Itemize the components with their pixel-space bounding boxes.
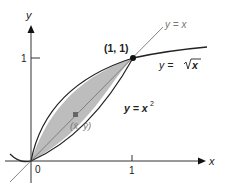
- x-axis-label: x: [208, 155, 215, 167]
- x-axis-arrow-icon: [198, 158, 206, 165]
- svg-text:x: x: [191, 59, 199, 71]
- origin-label: 0: [35, 164, 41, 175]
- y-tick-label: 1: [21, 53, 27, 64]
- svg-text:y =: y =: [158, 59, 173, 71]
- x-tick-label: 1: [129, 165, 135, 176]
- svg-text:2: 2: [150, 100, 154, 107]
- line-label: y = x: [164, 19, 187, 30]
- diagram-canvas: y x 0 1 1 (1, 1) y = x y = x y = x 2 (x̄…: [0, 0, 228, 189]
- svg-text:y = x: y = x: [123, 102, 149, 114]
- intersection-label: (1, 1): [104, 42, 129, 54]
- y-axis-arrow-icon: [28, 25, 35, 33]
- intersection-point: [130, 55, 136, 61]
- square-label: y = x 2: [123, 100, 154, 114]
- centroid-marker: [73, 112, 78, 117]
- centroid-label: (x̄, ȳ): [70, 120, 91, 131]
- sqrt-label: y = x: [158, 59, 201, 71]
- y-axis-label: y: [25, 9, 33, 21]
